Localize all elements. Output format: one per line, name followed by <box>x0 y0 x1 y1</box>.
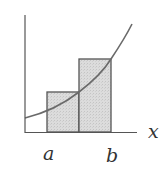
label-b: b <box>106 144 118 166</box>
label-a: a <box>43 142 54 164</box>
x-axis-label: x <box>148 120 159 142</box>
riemann-sum-diagram: x a b <box>0 0 165 169</box>
right-rectangle <box>79 59 111 132</box>
left-rectangle <box>47 92 79 132</box>
